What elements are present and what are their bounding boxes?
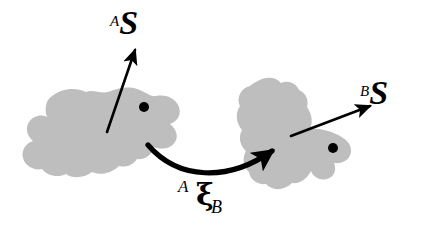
object-b-origin-dot — [328, 143, 338, 153]
object-a-group — [23, 88, 180, 178]
frame-b-label: BS — [360, 76, 388, 110]
transformation-presuperscript: A — [178, 178, 188, 195]
frame-b-symbol: S — [369, 74, 388, 111]
frame-a-symbol: S — [119, 4, 138, 41]
frame-a-label: AS — [110, 6, 138, 40]
frame-b-superscript: B — [360, 83, 369, 99]
figure-root: AS BS A ξ B — [0, 0, 426, 233]
transformation-subscript: B — [211, 198, 222, 216]
frame-a-superscript: A — [110, 13, 119, 29]
transformation-label: A ξ B — [178, 178, 242, 226]
object-a-origin-dot — [139, 102, 149, 112]
object-b-blob — [237, 78, 351, 189]
object-b-group — [237, 78, 351, 189]
object-a-blob — [23, 88, 180, 178]
